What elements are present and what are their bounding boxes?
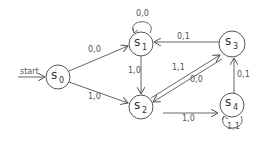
edge-s1-self: 0,0 [133,9,152,33]
edge-s2-s3: 1,1 [151,55,220,98]
edge-label: 1,0 [182,114,195,123]
edge-s0-s2: 1,0 [69,82,128,103]
edge-label: 1,1 [172,63,185,72]
edge-s0-s1: 0,0 [69,45,128,71]
state-s4: s 4 [220,93,244,117]
state-subscript: 2 [142,106,147,115]
start-arrow: start [18,67,45,77]
edge-label: 0,1 [237,70,250,79]
edge-label: 0,1 [177,32,190,41]
edge-s4-s3: 0,1 [234,58,250,93]
edge-label: 1,1 [227,122,240,131]
diagram-svg: start 0,0 1,0 0,0 1,0 0,1 1,1 0,0 1,0 [0,0,261,144]
state-subscript: 4 [233,103,238,112]
state-letter: s [51,68,57,82]
edge-label: 0,0 [136,9,149,18]
state-letter: s [225,95,231,109]
state-s0: s 0 [46,65,70,89]
state-diagram: start 0,0 1,0 0,0 1,0 0,1 1,1 0,0 1,0 [0,0,261,144]
edge-label: 0,0 [190,75,203,84]
start-label: start [20,67,39,76]
state-subscript: 0 [59,76,64,85]
state-subscript: 1 [142,43,147,52]
edge-label: 1,0 [128,66,141,75]
state-letter: s [225,34,231,48]
state-letter: s [134,98,140,112]
edge-label: 1,0 [88,92,101,101]
edge-label: 0,0 [88,45,101,54]
edge-s4-self: 1,1 [222,116,242,131]
state-subscript: 3 [233,42,238,51]
edge-s3-s1: 0,1 [154,32,219,42]
state-s1: s 1 [129,32,153,56]
state-letter: s [134,35,140,49]
state-s3: s 3 [219,31,245,57]
edge-s1-s2: 1,0 [128,56,141,94]
edge-s2-s4: 1,0 [163,113,218,123]
state-s2: s 2 [129,95,153,119]
edge-s3-s2: 0,0 [153,59,222,102]
